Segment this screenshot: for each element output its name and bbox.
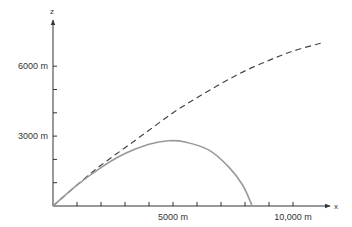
- trajectory-chart: 5000 m10,000 m x 3000 m6000 m z: [0, 0, 352, 227]
- trajectory-curves: [53, 43, 322, 206]
- z-axis-tick-labels: 3000 m6000 m: [18, 61, 48, 141]
- x-tick-label: 5000 m: [158, 212, 188, 222]
- z-axis-ticks: [53, 66, 57, 183]
- z-axis: 3000 m6000 m z: [18, 7, 57, 206]
- z-tick-label: 3000 m: [18, 131, 48, 141]
- trajectory-with-air-resistance-curve: [53, 141, 252, 206]
- x-tick-label: 10,000 m: [274, 212, 312, 222]
- x-axis-tick-labels: 5000 m10,000 m: [158, 212, 312, 222]
- x-axis-ticks: [77, 202, 293, 206]
- z-axis-label: z: [50, 7, 54, 16]
- z-tick-label: 6000 m: [18, 61, 48, 71]
- trajectory-without-air-resistance-curve: [53, 43, 322, 206]
- x-axis-label: x: [334, 202, 338, 211]
- x-axis: 5000 m10,000 m x: [53, 202, 338, 222]
